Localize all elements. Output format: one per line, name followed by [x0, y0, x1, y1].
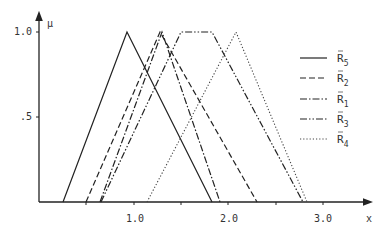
- legend-item-r1: R1: [337, 92, 349, 109]
- legend-item-r3: R3: [337, 112, 349, 129]
- legend: R5 R2 R1 R3 R4: [300, 51, 349, 149]
- chart: μ x 1.0 .5 1.0 2.0 3.0 R5 R2: [0, 0, 385, 235]
- legend-item-r4: R4: [337, 132, 349, 149]
- x-tick-1: 1.0: [126, 213, 144, 224]
- series-r2: [86, 32, 257, 202]
- svg-text:R4: R4: [337, 133, 349, 149]
- y-axis-label: μ: [47, 18, 53, 29]
- series-r5: [63, 32, 212, 202]
- svg-text:R2: R2: [337, 72, 349, 88]
- x-tick-3: 3.0: [314, 213, 332, 224]
- legend-item-r2: R2: [337, 71, 349, 88]
- y-ticks: 1.0 .5: [14, 26, 39, 122]
- series-r4: [147, 32, 307, 202]
- y-tick-1: 1.0: [14, 26, 32, 37]
- svg-text:R5: R5: [337, 52, 349, 68]
- x-axis-label: x: [366, 213, 372, 224]
- legend-item-r5: R5: [337, 51, 349, 68]
- svg-text:R3: R3: [337, 113, 349, 129]
- x-tick-2: 2.0: [220, 213, 238, 224]
- svg-text:R1: R1: [337, 93, 349, 109]
- y-tick-05: .5: [20, 111, 32, 122]
